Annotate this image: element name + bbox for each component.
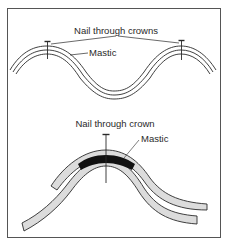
label-nail-through-crowns: Nail through crowns (74, 25, 158, 36)
label-mastic-top: Mastic (89, 47, 117, 58)
label-mastic-bottom: Mastic (141, 133, 169, 144)
roof-sheet-fixing-diagram: Nail through crowns Mastic Nail through … (0, 0, 226, 244)
label-nail-through-crown: Nail through crown (75, 118, 154, 129)
